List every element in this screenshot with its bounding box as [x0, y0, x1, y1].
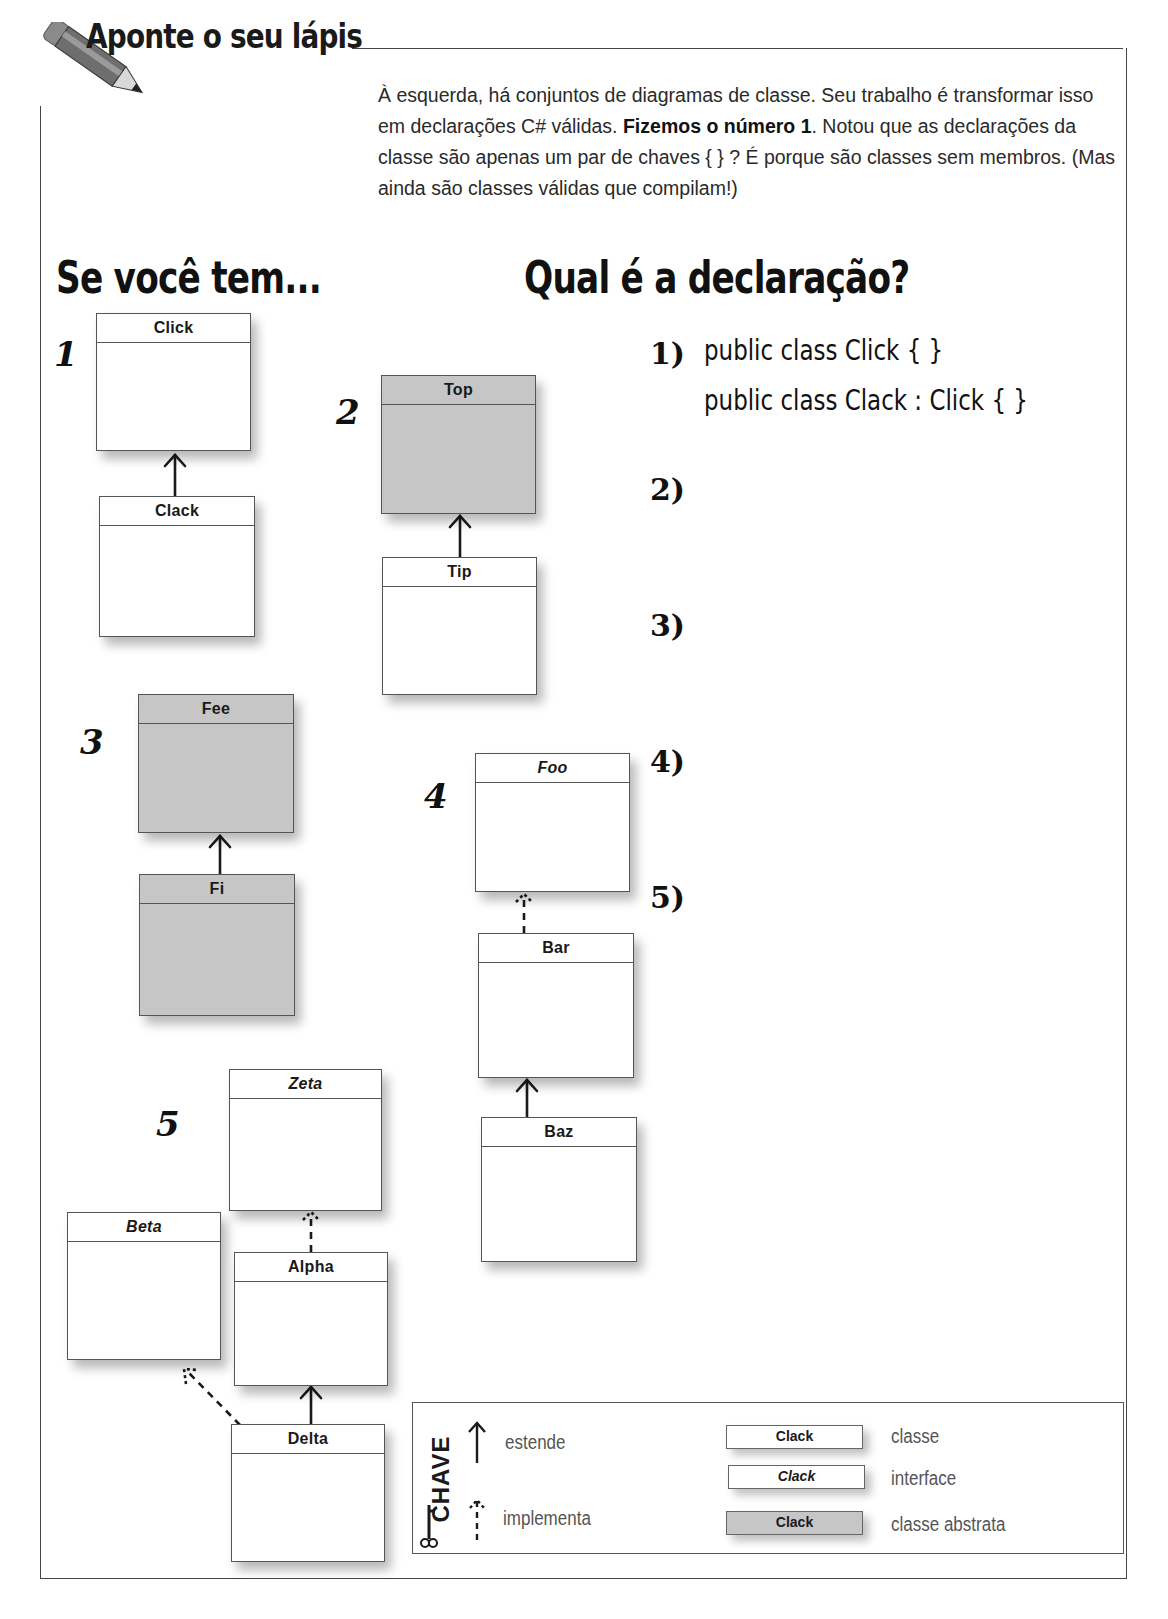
legend-sample-abstract: Clack	[726, 1511, 863, 1535]
abstract-class-box-top: Top	[381, 375, 536, 514]
interface-name: Foo	[476, 754, 629, 783]
class-box-alpha: Alpha	[234, 1252, 388, 1386]
legend-sample-class: Clack	[726, 1425, 863, 1449]
legend-sample-interface: Clack	[728, 1465, 865, 1489]
class-box-clack: Clack	[99, 496, 255, 637]
implements-arrow-icon	[465, 1495, 489, 1545]
class-name: Fee	[139, 695, 293, 724]
class-box-bar: Bar	[478, 933, 634, 1078]
class-box-tip: Tip	[382, 557, 537, 695]
legend-label-interface: interface	[891, 1467, 956, 1490]
class-name: Top	[382, 376, 535, 405]
class-name: Tip	[383, 558, 536, 587]
abstract-class-box-fee: Fee	[138, 694, 294, 833]
class-name: Alpha	[235, 1253, 387, 1282]
answer-label-2[interactable]: 2)	[650, 472, 685, 507]
class-name: Bar	[479, 934, 633, 963]
class-box-baz: Baz	[481, 1117, 637, 1262]
implements-label: implementa	[503, 1507, 591, 1530]
answer-label-5[interactable]: 5)	[650, 880, 685, 915]
interface-name: Zeta	[230, 1070, 381, 1099]
class-name: Delta	[232, 1425, 384, 1454]
class-name: Baz	[482, 1118, 636, 1147]
class-name: Clack	[100, 497, 254, 526]
abstract-class-box-fi: Fi	[139, 874, 295, 1016]
answer-1-line-2: public class Clack : Click { }	[704, 384, 1028, 417]
answer-label-3[interactable]: 3)	[650, 608, 685, 643]
interface-box-beta: Beta	[67, 1212, 221, 1360]
class-box-click: Click	[96, 313, 251, 451]
legend-key-box: CHAVE estende implementa Clack classe Cl…	[412, 1402, 1124, 1554]
interface-box-foo: Foo	[475, 753, 630, 892]
legend-label-class: classe	[891, 1425, 939, 1448]
answer-label-1: 1)	[650, 336, 685, 371]
key-icon	[417, 1503, 441, 1551]
class-name: Fi	[140, 875, 294, 904]
legend-label-abstract: classe abstrata	[891, 1513, 1005, 1536]
class-box-delta: Delta	[231, 1424, 385, 1562]
class-name: Click	[97, 314, 250, 343]
extends-arrow-icon	[465, 1419, 489, 1467]
answer-label-4[interactable]: 4)	[650, 744, 685, 779]
extends-label: estende	[505, 1431, 565, 1454]
answer-1-line-1: public class Click { }	[704, 334, 943, 367]
interface-box-zeta: Zeta	[229, 1069, 382, 1211]
interface-name: Beta	[68, 1213, 220, 1242]
